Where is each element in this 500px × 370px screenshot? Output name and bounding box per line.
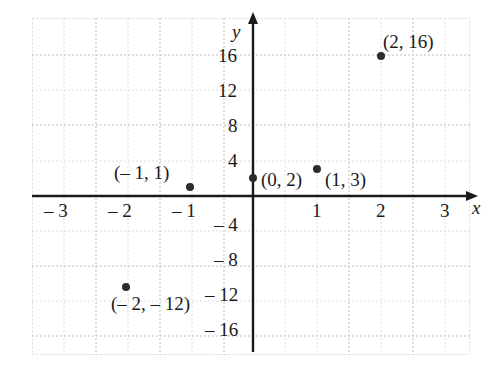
y-tick-8: 8 xyxy=(228,116,238,135)
x-tick-1: 1 xyxy=(312,201,322,220)
y-tick-minus-16: – 16 xyxy=(205,320,238,339)
data-point-minus1-1 xyxy=(186,183,194,191)
y-axis-label: y xyxy=(232,22,240,41)
data-point-1-3 xyxy=(313,165,321,173)
grid-lines xyxy=(32,18,470,355)
x-tick-minus-2: – 2 xyxy=(108,201,132,220)
data-point-2-16 xyxy=(377,52,385,60)
data-point-label-minus2-minus12: (– 2, – 12) xyxy=(111,294,190,313)
y-tick-4: 4 xyxy=(228,151,238,170)
x-tick-minus-1: – 1 xyxy=(172,201,196,220)
x-tick-2: 2 xyxy=(376,201,386,220)
y-tick-minus-12: – 12 xyxy=(205,285,238,304)
y-tick-16: 16 xyxy=(218,46,237,65)
x-tick-3: 3 xyxy=(440,201,450,220)
data-point-label-2-16: (2, 16) xyxy=(383,32,434,51)
plot-area xyxy=(32,18,470,355)
y-tick-12: 12 xyxy=(218,81,237,100)
data-point-0-2 xyxy=(249,174,257,182)
data-point-minus2-minus12 xyxy=(122,283,130,291)
y-tick-minus-8: – 8 xyxy=(214,250,238,269)
data-point-label-1-3: (1, 3) xyxy=(325,170,366,189)
x-tick-minus-3: – 3 xyxy=(44,201,68,220)
x-axis-label: x xyxy=(472,198,480,217)
data-point-label-0-2: (0, 2) xyxy=(261,170,302,189)
coordinate-plane-figure: y x 16 12 8 4 – 4 – 8 – 12 – 16 – 3 – 2 … xyxy=(0,0,500,370)
y-tick-minus-4: – 4 xyxy=(214,215,238,234)
data-point-label-minus1-1: (– 1, 1) xyxy=(114,163,169,182)
